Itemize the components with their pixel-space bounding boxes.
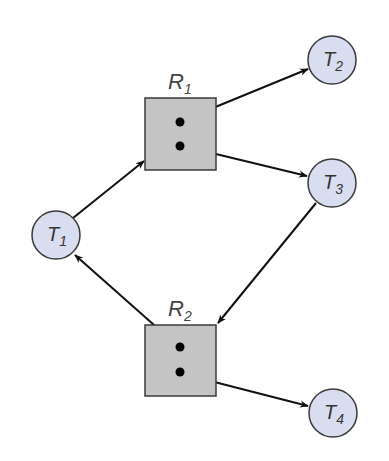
resource-r2-box bbox=[145, 325, 216, 396]
edge-t1-to-r1 bbox=[73, 161, 144, 218]
resource-allocation-graph: R1 R2 T1 T2 T3 T4 bbox=[0, 0, 389, 461]
resource-r2-instance-1 bbox=[176, 343, 185, 352]
edge-t3-to-r2 bbox=[218, 203, 316, 323]
resource-r1-instance-1 bbox=[176, 118, 185, 127]
thread-t2: T2 bbox=[308, 36, 356, 84]
resource-r1: R1 bbox=[145, 69, 216, 170]
resource-r2-instance-2 bbox=[176, 368, 185, 377]
thread-t4: T4 bbox=[309, 389, 357, 437]
thread-t3: T3 bbox=[308, 159, 356, 207]
resource-r2-label: R2 bbox=[168, 296, 192, 324]
resource-r1-box bbox=[145, 98, 216, 170]
resource-r1-label: R1 bbox=[168, 69, 192, 97]
thread-t1: T1 bbox=[32, 211, 80, 259]
resource-r2: R2 bbox=[145, 296, 216, 396]
resource-r1-instance-2 bbox=[176, 142, 185, 151]
